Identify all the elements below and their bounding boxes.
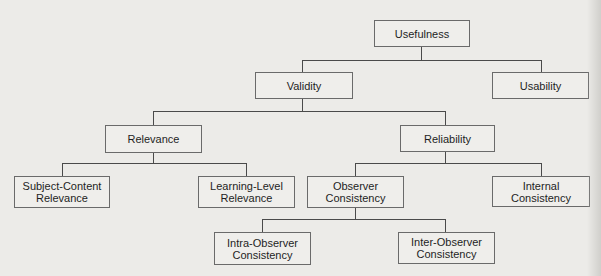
connector: [421, 46, 422, 60]
hierarchy-diagram: Usefulness Validity Usability Relevance …: [0, 0, 601, 276]
connector: [355, 163, 542, 164]
node-learning-level-relevance: Learning-Level Relevance: [198, 176, 295, 208]
node-validity: Validity: [255, 72, 353, 99]
connector: [445, 111, 446, 125]
connector: [262, 219, 263, 232]
node-reliability: Reliability: [400, 125, 495, 152]
connector: [62, 163, 63, 176]
connector: [302, 60, 542, 61]
node-subject-content-relevance: Subject-Content Relevance: [14, 176, 110, 208]
connector: [355, 207, 356, 219]
node-usefulness: Usefulness: [374, 20, 470, 47]
connector: [355, 163, 356, 176]
connector: [541, 60, 542, 72]
connector: [445, 219, 446, 232]
connector: [153, 111, 154, 125]
connector: [262, 219, 446, 220]
node-relevance: Relevance: [105, 125, 202, 153]
connector: [302, 60, 303, 72]
connector: [246, 163, 247, 176]
node-inter-observer-consistency: Inter-Observer Consistency: [398, 232, 495, 264]
connector: [445, 151, 446, 163]
connector: [153, 111, 446, 112]
node-usability: Usability: [492, 72, 589, 99]
connector: [153, 152, 154, 163]
page-edge-shadow: [587, 0, 601, 276]
connector: [302, 98, 303, 111]
connector: [62, 163, 247, 164]
node-observer-consistency: Observer Consistency: [307, 176, 404, 208]
node-intra-observer-consistency: Intra-Observer Consistency: [214, 232, 311, 265]
node-internal-consistency: Internal Consistency: [492, 176, 590, 207]
connector: [541, 163, 542, 176]
